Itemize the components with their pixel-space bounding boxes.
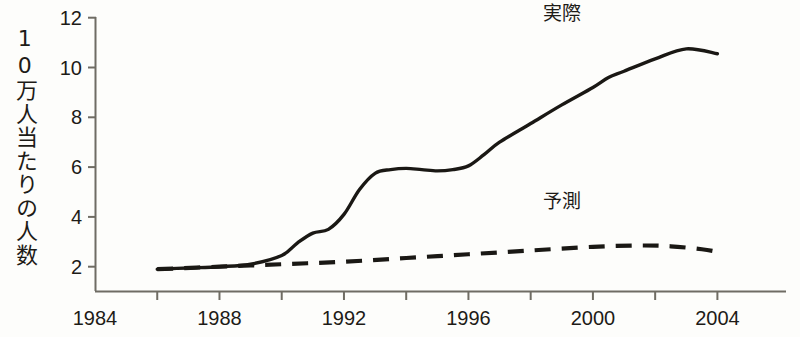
series-line-1 (157, 49, 717, 269)
x-tick-label-2000: 2000 (571, 307, 616, 329)
y-tick-label-10: 10 (60, 57, 82, 79)
y-tick-label-6: 6 (71, 156, 82, 178)
line-chart-plot: 24681012 198419881992199620002004 実際予測 (0, 0, 800, 337)
chart-figure: 10万人当たりの人数 24681012 19841988199219962000… (0, 0, 800, 337)
series-line-2 (157, 246, 717, 270)
x-tick-label-1988: 1988 (197, 307, 242, 329)
y-tick-label-4: 4 (71, 206, 82, 228)
data-series-group (157, 49, 717, 269)
x-tick-label-1996: 1996 (446, 307, 491, 329)
x-tick-label-1984: 1984 (73, 307, 118, 329)
y-tick-label-2: 2 (71, 256, 82, 278)
series-annotations: 実際予測 (543, 2, 581, 212)
x-tick-label-1992: 1992 (322, 307, 367, 329)
series-annotation-1: 実際 (543, 2, 581, 24)
axes-group (95, 17, 786, 292)
y-tick-label-12: 12 (60, 7, 82, 29)
y-tick-label-8: 8 (71, 106, 82, 128)
series-annotation-2: 予測 (543, 190, 581, 212)
x-tick-labels: 198419881992199620002004 (73, 307, 740, 329)
cropped-caption (0, 327, 800, 337)
y-tick-labels: 24681012 (60, 7, 82, 278)
x-tick-label-2004: 2004 (695, 307, 740, 329)
